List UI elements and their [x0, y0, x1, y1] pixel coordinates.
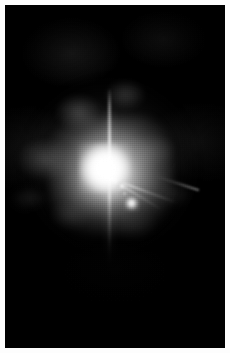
astronomy-figure	[0, 0, 230, 353]
image-grain	[5, 5, 225, 348]
image-plate	[5, 5, 225, 348]
